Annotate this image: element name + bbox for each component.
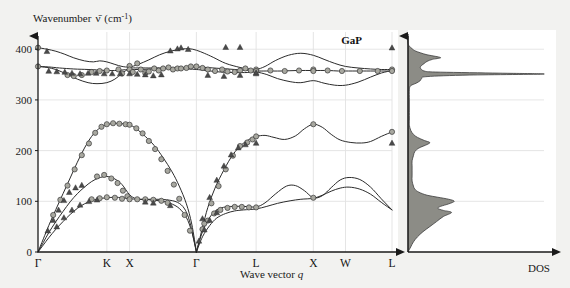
data-point-circle: [102, 172, 107, 177]
data-point-circle: [202, 221, 207, 226]
x-symmetry-label-Γ: Γ: [35, 257, 42, 269]
data-point-circle: [311, 195, 316, 200]
chart-svg: 0100200300400 ΓKXΓLXWL Wavenumberν̄(cm-1…: [0, 0, 570, 288]
data-point-circle: [153, 146, 158, 151]
data-point-circle: [205, 67, 210, 72]
data-point-circle: [112, 195, 117, 200]
data-point-circle: [159, 157, 164, 162]
data-point-circle: [135, 61, 140, 66]
data-point-circle: [177, 196, 182, 201]
dos-axis-title: DOS: [528, 262, 550, 274]
data-point-circle: [232, 69, 237, 74]
data-point-circle: [254, 134, 259, 139]
y-tick-label: 400: [16, 43, 33, 55]
data-point-circle: [220, 67, 225, 72]
material-label: GaP: [341, 34, 362, 46]
data-point-circle: [357, 68, 362, 73]
x-symmetry-label-K: K: [103, 257, 112, 269]
data-point-circle: [146, 69, 151, 74]
data-point-circle: [119, 196, 124, 201]
data-point-circle: [194, 64, 199, 69]
data-point-circle: [165, 168, 170, 173]
data-point-circle: [243, 66, 248, 71]
data-point-circle: [296, 68, 301, 73]
data-point-circle: [110, 121, 115, 126]
data-point-circle: [178, 66, 183, 71]
y-axis-title: Wavenumberν̄(cm-1): [33, 12, 132, 25]
data-point-circle: [225, 69, 230, 74]
data-point-circle: [159, 198, 164, 203]
data-point-circle: [127, 122, 132, 127]
data-point-circle: [311, 68, 316, 73]
data-point-circle: [225, 205, 230, 210]
data-point-circle: [239, 204, 244, 209]
data-point-circle: [79, 153, 84, 158]
x-symmetry-label-W: W: [340, 257, 351, 269]
data-point-circle: [127, 197, 132, 202]
data-point-circle: [117, 121, 122, 126]
y-tick-label: 300: [16, 94, 33, 106]
data-point-circle: [339, 68, 344, 73]
phonon-dispersion-figure: 0100200300400 ΓKXΓLXWL Wavenumberν̄(cm-1…: [0, 0, 570, 288]
data-point-circle: [325, 68, 330, 73]
data-point-circle: [182, 212, 187, 217]
data-point-circle: [72, 167, 77, 172]
x-symmetry-label-L: L: [388, 257, 395, 269]
data-point-circle: [311, 122, 316, 127]
data-point-circle: [282, 68, 287, 73]
data-point-circle: [104, 122, 109, 127]
data-point-circle: [209, 201, 214, 206]
data-point-circle: [120, 188, 125, 193]
data-point-circle: [232, 204, 237, 209]
data-point-circle: [86, 141, 91, 146]
data-point-circle: [268, 68, 273, 73]
data-point-circle: [134, 126, 139, 131]
data-point-circle: [109, 176, 114, 181]
data-point-circle: [135, 197, 140, 202]
data-point-circle: [65, 183, 70, 188]
data-point-circle: [161, 66, 166, 71]
data-point-circle: [188, 64, 193, 69]
data-point-circle: [146, 138, 151, 143]
data-point-circle: [171, 182, 176, 187]
data-point-circle: [94, 174, 99, 179]
data-point-circle: [115, 180, 120, 185]
data-point-circle: [99, 124, 104, 129]
data-point-circle: [97, 68, 102, 73]
data-point-circle: [254, 205, 259, 210]
data-point-circle: [140, 131, 145, 136]
data-point-circle: [218, 207, 223, 212]
x-symmetry-label-Γ: Γ: [193, 257, 200, 269]
data-point-circle: [138, 67, 143, 72]
data-point-circle: [93, 130, 98, 135]
x-symmetry-label-X: X: [309, 257, 318, 269]
data-point-circle: [216, 183, 221, 188]
x-symmetry-label-X: X: [125, 257, 134, 269]
data-point-circle: [104, 195, 109, 200]
data-point-circle: [200, 65, 205, 70]
y-tick-label: 100: [16, 195, 33, 207]
y-tick-label: 0: [27, 246, 33, 258]
data-point-circle: [248, 68, 253, 73]
data-point-circle: [389, 129, 394, 134]
y-tick-label: 200: [16, 145, 33, 157]
data-point-circle: [246, 205, 251, 210]
data-point-circle: [187, 228, 192, 233]
data-point-circle: [375, 68, 380, 73]
data-point-circle: [212, 68, 217, 73]
x-axis-title: Wave vector q: [240, 268, 304, 280]
data-point-circle: [389, 68, 394, 73]
